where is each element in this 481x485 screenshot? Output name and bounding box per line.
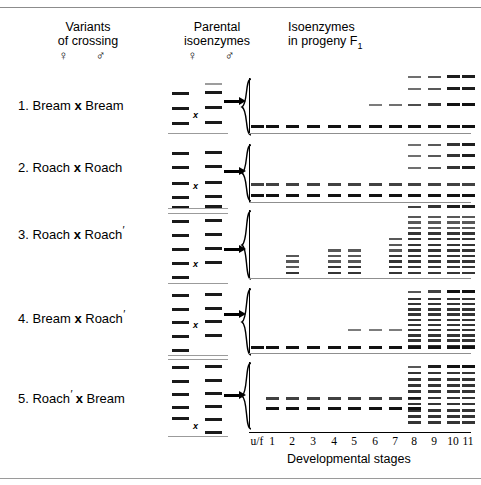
isoenzyme-band	[428, 409, 441, 412]
progeny-gel-panel	[0, 0, 481, 485]
isoenzyme-band	[428, 415, 441, 418]
isoenzyme-band	[447, 415, 460, 418]
isoenzyme-band	[328, 407, 341, 410]
isoenzyme-band	[348, 407, 361, 410]
isoenzyme-band	[428, 378, 441, 381]
isoenzyme-band	[408, 415, 421, 418]
isoenzyme-band	[447, 384, 460, 387]
isoenzyme-band	[286, 397, 299, 400]
isoenzyme-band	[447, 421, 460, 424]
isoenzyme-band	[462, 365, 475, 368]
isoenzyme-band	[462, 378, 475, 381]
isoenzyme-band	[462, 403, 475, 406]
isoenzyme-band	[462, 384, 475, 387]
isoenzyme-band	[462, 415, 475, 418]
isoenzyme-band	[266, 407, 279, 410]
isoenzyme-band	[428, 390, 441, 393]
isoenzyme-band	[447, 390, 460, 393]
isoenzyme-band	[462, 397, 475, 400]
isoenzyme-band	[389, 397, 402, 400]
isoenzyme-band	[428, 365, 441, 368]
isoenzyme-band	[369, 407, 382, 410]
isoenzyme-band	[408, 409, 421, 412]
isoenzyme-band	[389, 407, 402, 410]
isoenzyme-band	[348, 397, 361, 400]
isoenzyme-band	[428, 384, 441, 387]
isoenzyme-band	[408, 403, 421, 406]
isoenzyme-band	[328, 397, 341, 400]
isoenzyme-band	[428, 403, 441, 406]
isoenzyme-band	[428, 421, 441, 424]
isoenzyme-band	[408, 378, 421, 381]
isoenzyme-band	[428, 372, 441, 375]
isoenzyme-band	[307, 407, 320, 410]
isoenzyme-band	[286, 407, 299, 410]
isoenzyme-band	[408, 397, 421, 400]
isoenzyme-band	[408, 421, 421, 424]
isoenzyme-band	[307, 397, 320, 400]
isoenzyme-band	[447, 403, 460, 406]
isoenzyme-band	[447, 372, 460, 375]
isoenzyme-figure: Variants of crossing ♀ ♂ Parental isoenz…	[0, 0, 481, 485]
isoenzyme-band	[266, 397, 279, 400]
panel-left-border	[249, 362, 250, 428]
x-axis-title: Developmental stages	[287, 452, 411, 466]
isoenzyme-band	[428, 397, 441, 400]
isoenzyme-band	[447, 365, 460, 368]
isoenzyme-band	[408, 384, 421, 387]
isoenzyme-band	[447, 378, 460, 381]
x-axis-line	[249, 432, 471, 433]
isoenzyme-band	[408, 390, 421, 393]
isoenzyme-band	[447, 409, 460, 412]
isoenzyme-band	[408, 372, 421, 375]
isoenzyme-band	[462, 409, 475, 412]
isoenzyme-band	[462, 372, 475, 375]
isoenzyme-band	[369, 397, 382, 400]
isoenzyme-band	[447, 397, 460, 400]
isoenzyme-band	[408, 366, 421, 368]
isoenzyme-band	[462, 390, 475, 393]
isoenzyme-band	[462, 421, 475, 424]
x-axis-tick-11: 11	[454, 435, 481, 447]
